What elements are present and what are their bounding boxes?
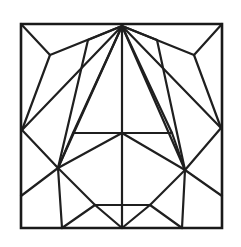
crease-pattern-canvas <box>0 0 241 247</box>
canvas-background <box>0 0 241 247</box>
figure-root <box>0 0 241 247</box>
